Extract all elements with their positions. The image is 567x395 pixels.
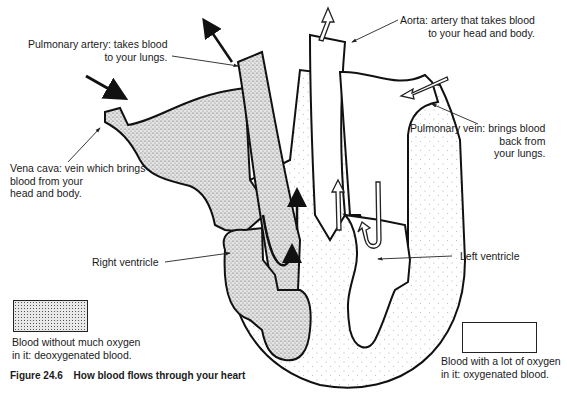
pulmonary-vein-label: Pulmonary vein: brings blood back from y…: [410, 122, 545, 160]
legend-swatch-oxygenated: [462, 322, 537, 353]
legend-swatch-deoxygenated: [13, 300, 88, 332]
legend-deoxygenated-text: Blood without much oxygen in it: deoxyge…: [12, 336, 140, 361]
legend-line: in it: deoxygenated blood.: [12, 349, 140, 362]
legend-oxygenated-text: Blood with a lot of oxygen in it: oxygen…: [441, 355, 561, 380]
label-line: to your head and body.: [400, 27, 535, 40]
legend-line: Blood without much oxygen: [12, 336, 140, 349]
label-line: head and body.: [10, 187, 145, 200]
label-line: back from: [410, 135, 545, 148]
legend-line: in it: oxygenated blood.: [441, 368, 561, 381]
label-line: Pulmonary artery: takes blood: [28, 38, 167, 51]
label-line: Vena cava: vein which brings: [10, 162, 145, 175]
label-line: your lungs.: [410, 147, 545, 160]
left-ventricle-label: Left ventricle: [460, 250, 520, 263]
pulmonary-outflow-arrow: [205, 22, 232, 62]
label-line: blood from your: [10, 175, 145, 188]
right-ventricle-label: Right ventricle: [92, 256, 159, 269]
pulmonary-artery-label: Pulmonary artery: takes blood to your lu…: [28, 38, 167, 63]
vena-cava-inflow-arrow: [86, 76, 123, 97]
label-line: Pulmonary vein: brings blood: [410, 122, 545, 135]
aorta-label: Aorta: artery that takes blood to your h…: [400, 14, 535, 39]
legend-line: Blood with a lot of oxygen: [441, 355, 561, 368]
figure-number: Figure 24.6: [10, 370, 63, 381]
figure-caption: Figure 24.6 How blood flows through your…: [10, 370, 245, 381]
label-line: Aorta: artery that takes blood: [400, 14, 535, 27]
label-line: to your lungs.: [28, 51, 167, 64]
vena-cava-label: Vena cava: vein which brings blood from …: [10, 162, 145, 200]
figure-title: How blood flows through your heart: [74, 370, 246, 381]
